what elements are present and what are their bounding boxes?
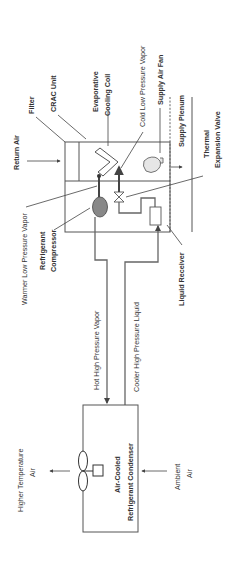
supply-air-fan-icon <box>143 157 163 173</box>
label-supply-air-fan: Supply Air Fan <box>156 55 165 105</box>
label-hot-high-pressure-vapor: Hot High Pressure Vapor <box>92 310 101 390</box>
label-higher-temp-air-2: Air <box>28 468 37 477</box>
label-compressor-1: Refrigerant <box>38 231 47 270</box>
label-evaporative-coil-1: Evaporative <box>91 71 100 112</box>
label-compressor-2: Compressor <box>49 229 58 272</box>
refrigerant-compressor-icon <box>93 197 108 217</box>
label-evaporative-coil-2: Cooling Coil <box>103 74 112 116</box>
air-cooled-condenser <box>50 405 167 532</box>
thermal-expansion-valve-icon <box>114 192 124 202</box>
label-cold-low-pressure-vapor: Cold Low Pressure Vapor <box>138 45 147 127</box>
piping <box>95 217 158 405</box>
label-cooler-high-pressure-liquid: Cooler High Pressure Liquid <box>132 302 141 392</box>
evaporative-cooling-coil <box>95 148 118 176</box>
label-condenser-1: Air-Cooled <box>113 456 122 493</box>
label-ambient-air-2: Air <box>185 469 194 478</box>
label-liquid-receiver: Liquid Receiver <box>177 252 186 306</box>
label-warmer-low-pressure-vapor: Warmer Low Pressure Vapor <box>20 213 29 305</box>
label-ambient-air-1: Ambient <box>173 464 182 490</box>
label-return-air: Return Air <box>12 135 21 170</box>
label-crac-unit: CRAC Unit <box>49 75 58 112</box>
crac-refrigeration-diagram: Return Air Filter CRAC Unit Evaporative … <box>0 0 225 578</box>
label-higher-temp-air-1: Higher Temperature <box>16 449 25 512</box>
label-filter: Filter <box>27 96 36 114</box>
label-txv-2: Expansion Valve <box>213 111 222 168</box>
label-supply-plenum: Supply Plenum <box>177 95 186 147</box>
condenser-fan-icon <box>79 451 104 491</box>
labels: Return Air Filter CRAC Unit Evaporative … <box>12 45 222 521</box>
label-condenser-2: Refrigerant Condenser <box>126 443 135 521</box>
liquid-receiver-icon <box>150 207 161 225</box>
label-txv-1: Thermal <box>202 130 211 158</box>
